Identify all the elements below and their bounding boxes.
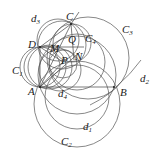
label-C2: C2 [61, 135, 72, 149]
label-N: N [74, 50, 83, 62]
circle-d1 [45, 65, 109, 129]
label-A: A [27, 85, 35, 97]
point-A [39, 86, 41, 88]
label-d4: d4 [58, 87, 68, 101]
label-P: P [60, 54, 68, 66]
label-C4: C4 [85, 32, 96, 46]
label-C3: C3 [122, 23, 133, 37]
label-C: C [66, 10, 74, 22]
label-Q: Q [68, 33, 76, 45]
label-d2: d2 [140, 72, 150, 86]
point-C [70, 23, 72, 25]
geometry-diagram: C d3 C3 D M Q C4 P N C1 A d4 B d2 d1 C2 [0, 0, 159, 161]
label-C1: C1 [12, 64, 23, 78]
point-D [39, 46, 41, 48]
label-D: D [27, 38, 36, 50]
label-M: M [49, 42, 60, 54]
label-d1: d1 [83, 120, 92, 134]
label-B: B [120, 86, 127, 98]
label-d3: d3 [31, 12, 41, 26]
circle-C2 [34, 61, 120, 147]
point-B [113, 86, 115, 88]
